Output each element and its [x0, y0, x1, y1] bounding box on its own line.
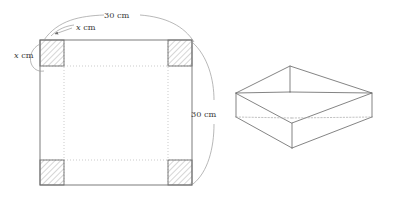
corner-cut-top-right — [168, 40, 192, 66]
box-diagram — [236, 66, 372, 148]
box-hidden-base-right — [292, 117, 372, 118]
box-inner-base-left — [236, 92, 290, 93]
corner-cut-top-left — [40, 40, 64, 66]
corner-height-label: x cm — [14, 50, 34, 60]
figure-canvas: 30 cm 30 cm x cm x cm — [0, 0, 402, 205]
top-dimension-arc-right — [140, 15, 194, 42]
net-diagram: 30 cm 30 cm x cm x cm — [14, 10, 217, 185]
top-dimension-label: 30 cm — [104, 10, 130, 20]
geometry-figure: 30 cm 30 cm x cm x cm — [0, 0, 402, 205]
right-dimension-arc-bottom — [193, 124, 214, 184]
box-inner-base-right — [290, 92, 372, 93]
corner-cut-bottom-left — [40, 160, 64, 185]
box-hidden-base-left — [236, 117, 292, 118]
right-dimension-label: 30 cm — [191, 109, 217, 119]
corner-width-leader-arc — [51, 25, 74, 36]
box-top-rim — [236, 66, 372, 123]
box-base-edge-front-right — [292, 117, 372, 148]
corner-cut-bottom-right — [168, 160, 192, 185]
box-base-edge-front-left — [236, 117, 292, 148]
corner-width-label: x cm — [76, 22, 96, 32]
right-dimension-arc-top — [192, 42, 214, 100]
